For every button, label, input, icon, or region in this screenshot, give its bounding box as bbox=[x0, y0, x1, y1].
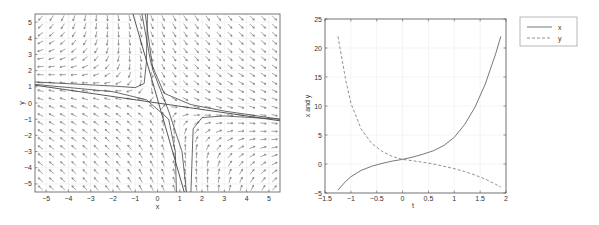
y-tick-label: 10 bbox=[314, 103, 322, 110]
x-tick-label: −4 bbox=[64, 195, 72, 202]
field-arrow bbox=[183, 72, 187, 76]
field-arrow bbox=[194, 81, 199, 85]
legend: x y bbox=[520, 17, 577, 46]
field-arrow bbox=[83, 154, 87, 158]
field-arrow bbox=[250, 48, 255, 52]
field-arrow bbox=[228, 40, 232, 44]
y-tick-label: −1 bbox=[24, 116, 32, 123]
field-arrow bbox=[183, 81, 187, 85]
field-arrow bbox=[94, 56, 98, 61]
x-tick-label: −1 bbox=[131, 195, 139, 202]
x-tick-label: 2 bbox=[504, 195, 508, 202]
field-arrow bbox=[217, 32, 221, 36]
field-arrow bbox=[239, 57, 244, 61]
x-tick-label: 5 bbox=[267, 195, 271, 202]
field-arrow bbox=[83, 146, 88, 150]
x-tick-label: 1 bbox=[452, 195, 456, 202]
field-arrow bbox=[195, 48, 199, 53]
y-tick-label: 2 bbox=[28, 67, 32, 74]
field-arrow bbox=[206, 56, 210, 60]
field-arrow bbox=[117, 153, 121, 158]
field-arrow bbox=[49, 162, 54, 166]
field-arrow bbox=[50, 186, 54, 190]
field-arrow bbox=[195, 129, 199, 134]
field-arrow bbox=[117, 161, 121, 166]
x-tick-label: −2 bbox=[109, 195, 117, 202]
y-tick-label: 25 bbox=[314, 16, 322, 23]
field-arrow bbox=[94, 153, 98, 157]
field-arrow bbox=[161, 105, 165, 110]
field-arrow bbox=[250, 40, 254, 44]
legend-x-label: x bbox=[558, 24, 562, 31]
field-arrow bbox=[217, 48, 221, 52]
field-arrow bbox=[72, 48, 77, 52]
field-arrow bbox=[61, 154, 66, 158]
field-arrow bbox=[94, 162, 98, 166]
field-arrow bbox=[50, 178, 54, 182]
field-arrow bbox=[239, 24, 243, 28]
field-arrow bbox=[250, 32, 254, 36]
field-arrow bbox=[239, 154, 244, 158]
x-tick-label: 0 bbox=[156, 195, 160, 202]
field-arrow bbox=[261, 49, 266, 53]
field-arrow bbox=[61, 162, 65, 166]
x-tick-label: 1 bbox=[178, 195, 182, 202]
field-arrow bbox=[239, 161, 243, 166]
field-arrow bbox=[72, 40, 76, 45]
direction-field-plot: −5−4−3−2−1012345543210−1−2−3−4−5xy bbox=[18, 14, 280, 210]
field-arrow bbox=[194, 64, 198, 68]
field-arrow bbox=[205, 73, 210, 77]
field-arrow bbox=[49, 170, 53, 174]
x-tick-label: 0.5 bbox=[424, 195, 434, 202]
field-arrow bbox=[105, 137, 109, 141]
field-arrow bbox=[261, 32, 265, 36]
trajectory bbox=[35, 14, 147, 88]
field-arrow bbox=[272, 178, 276, 182]
field-arrow bbox=[61, 32, 65, 37]
field-arrow bbox=[128, 80, 132, 85]
field-arrow bbox=[183, 121, 187, 126]
field-arrow bbox=[261, 170, 265, 174]
x-tick-label: 3 bbox=[222, 195, 226, 202]
y-tick-label: 15 bbox=[314, 74, 322, 81]
field-arrow bbox=[261, 16, 265, 20]
y-tick-label: 4 bbox=[28, 35, 32, 42]
field-arrow bbox=[105, 145, 109, 149]
field-arrow bbox=[139, 113, 143, 117]
field-arrow bbox=[94, 170, 98, 174]
field-arrow bbox=[72, 154, 76, 158]
series-x-line bbox=[338, 36, 501, 190]
legend-box bbox=[520, 17, 577, 46]
field-arrow bbox=[94, 178, 98, 183]
field-arrow bbox=[49, 32, 53, 36]
field-arrow bbox=[206, 24, 210, 29]
y-tick-label: −2 bbox=[24, 132, 32, 139]
field-arrow bbox=[106, 178, 110, 183]
y-tick-label: 20 bbox=[314, 45, 322, 52]
field-arrow bbox=[72, 178, 76, 182]
field-arrow bbox=[94, 186, 98, 191]
field-arrow bbox=[172, 113, 176, 118]
y-tick-label: 0 bbox=[28, 100, 32, 107]
field-arrow bbox=[128, 137, 132, 142]
x-axis-label: x bbox=[156, 203, 160, 210]
field-arrow bbox=[83, 138, 88, 142]
field-arrow bbox=[228, 57, 233, 61]
field-arrow bbox=[38, 24, 42, 28]
field-arrow bbox=[250, 169, 254, 174]
field-arrow bbox=[83, 178, 87, 182]
field-arrow bbox=[127, 121, 131, 125]
field-arrow bbox=[216, 65, 221, 69]
field-arrow bbox=[217, 40, 221, 44]
field-arrow bbox=[195, 40, 199, 45]
field-arrow bbox=[39, 16, 43, 21]
x-tick-label: −0.5 bbox=[370, 195, 384, 202]
field-arrow bbox=[72, 170, 76, 174]
field-arrow bbox=[117, 145, 121, 149]
field-arrow bbox=[239, 32, 243, 36]
field-arrow bbox=[228, 153, 232, 158]
field-arrow bbox=[61, 40, 66, 44]
field-arrow bbox=[83, 48, 87, 53]
x-tick-label: 1.5 bbox=[475, 195, 485, 202]
field-arrow bbox=[239, 40, 243, 44]
